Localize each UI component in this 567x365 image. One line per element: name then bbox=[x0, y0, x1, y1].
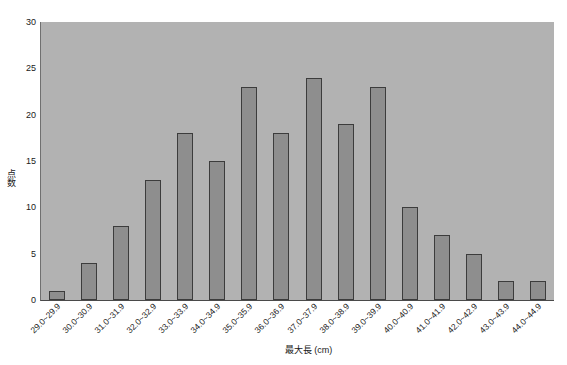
bar bbox=[209, 161, 225, 300]
histogram-figure: 点数 051015202530 29.0~29.930.0~30.931.0~3… bbox=[0, 0, 567, 365]
bar bbox=[434, 235, 450, 300]
bar bbox=[338, 124, 354, 300]
y-axis-tick-label: 30 bbox=[14, 18, 36, 27]
y-axis-tick-label: 20 bbox=[14, 110, 36, 119]
y-axis-tick-label: 15 bbox=[14, 157, 36, 166]
y-axis-tick-labels: 051015202530 bbox=[14, 16, 36, 306]
y-axis-tick-label: 10 bbox=[14, 203, 36, 212]
y-axis-tick-label: 5 bbox=[14, 249, 36, 258]
x-axis-title: 最大長 (cm) bbox=[0, 343, 567, 356]
bar bbox=[370, 87, 386, 300]
bar bbox=[113, 226, 129, 300]
bar-series bbox=[41, 22, 554, 300]
y-axis-tick-label: 0 bbox=[14, 296, 36, 305]
bar bbox=[81, 263, 97, 300]
plot-area bbox=[40, 22, 554, 301]
bar bbox=[402, 207, 418, 300]
bar bbox=[466, 254, 482, 300]
bar bbox=[273, 133, 289, 300]
bar bbox=[530, 281, 546, 300]
bar bbox=[177, 133, 193, 300]
bar bbox=[145, 180, 161, 300]
y-axis-tick-label: 25 bbox=[14, 64, 36, 73]
bar bbox=[498, 281, 514, 300]
bar bbox=[49, 291, 65, 300]
bar bbox=[241, 87, 257, 300]
bar bbox=[306, 78, 322, 300]
